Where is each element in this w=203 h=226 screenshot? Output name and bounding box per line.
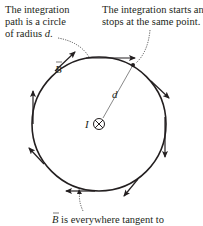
leader-line (136, 30, 150, 63)
field-label: B (55, 63, 62, 75)
current-into-page-icon (94, 119, 105, 130)
b-vector-arrow-icon (124, 179, 138, 196)
start-point-dot (131, 63, 135, 67)
current-label: I (84, 118, 90, 130)
radius-label: d (112, 88, 118, 100)
radius-line (103, 65, 133, 118)
ampere-loop-diagram: d I B (0, 0, 203, 226)
leader-line (79, 192, 83, 211)
b-vector-arrow-icon (29, 148, 44, 164)
